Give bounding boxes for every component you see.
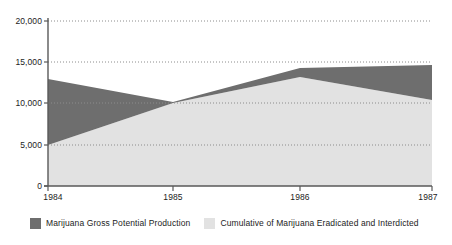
legend-item-gross-potential-production: Marijuana Gross Potential Production — [30, 218, 190, 229]
legend-label: Marijuana Gross Potential Production — [46, 218, 190, 228]
stacked-area-chart: 20,000 15,000 10,000 5,000 0 — [0, 0, 452, 245]
legend-item-cumulative-eradicated-interdicted: Cumulative of Marijuana Eradicated and I… — [204, 218, 418, 229]
legend-swatch-icon — [204, 218, 215, 229]
x-tick-marks — [48, 186, 432, 191]
x-tick-label: 1984 — [43, 192, 62, 202]
x-tick-label: 1985 — [163, 192, 182, 202]
x-tick-label: 1986 — [290, 192, 309, 202]
chart-canvas — [0, 0, 452, 205]
legend-swatch-icon — [30, 218, 41, 229]
chart-legend: Marijuana Gross Potential Production Cum… — [0, 211, 452, 235]
x-tick-label: 1987 — [418, 192, 437, 202]
plot-area: 20,000 15,000 10,000 5,000 0 — [0, 0, 452, 205]
legend-label: Cumulative of Marijuana Eradicated and I… — [220, 218, 418, 228]
